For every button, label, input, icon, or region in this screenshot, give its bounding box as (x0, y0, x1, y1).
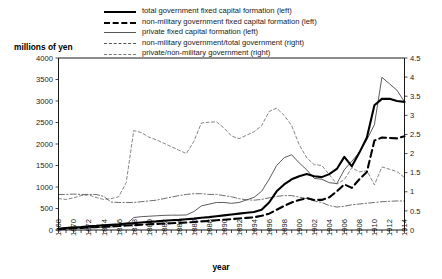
x-axis-tick-label: 1878 (130, 219, 139, 236)
y-axis-left-tick-label: 1000 (36, 183, 53, 192)
x-axis-tick-label: 1892 (235, 219, 244, 236)
y-axis-right-ticks: 00.511.522.533.544.5 (405, 54, 421, 235)
y-axis-left-tick-label: 3500 (36, 75, 53, 84)
x-axis-tick-label: 1884 (175, 219, 184, 236)
chart-svg: 05001000150020002500300035004000 00.511.… (0, 0, 442, 279)
y-axis-left-tick-label: 4000 (36, 54, 53, 63)
x-axis-tick-label: 1890 (220, 219, 229, 236)
y-axis-right-tick-label: 1 (410, 187, 414, 196)
x-axis-tick-label: 1902 (310, 219, 319, 236)
y-axis-right-tick-label: 0 (410, 226, 414, 235)
data-series-group (59, 77, 405, 229)
x-axis-tick-label: 1912 (385, 219, 394, 236)
y-axis-right-tick-label: 4.5 (410, 54, 421, 63)
x-axis-tick-label: 1898 (280, 219, 289, 236)
y-axis-left-tick-label: 500 (40, 204, 53, 213)
y-axis-right-tick-label: 1.5 (410, 168, 421, 177)
x-axis-tick-label: 1906 (340, 219, 349, 236)
chart-figure: total government fixed capital formation… (0, 0, 442, 279)
series-line (59, 77, 405, 229)
y-axis-left-tick-label: 2000 (36, 140, 53, 149)
y-axis-left-ticks: 05001000150020002500300035004000 (36, 54, 58, 235)
y-axis-left-tick-label: 3000 (36, 97, 53, 106)
x-axis-tick-label: 1876 (115, 219, 124, 236)
x-axis-tick-label: 1894 (250, 219, 259, 236)
series-line (59, 99, 405, 229)
y-axis-right-tick-label: 3 (410, 111, 414, 120)
x-axis-tick-label: 1900 (295, 219, 304, 236)
series-line (59, 108, 405, 199)
series-line (59, 194, 405, 207)
x-axis-tick-label: 1904 (325, 219, 334, 236)
plot-area: 05001000150020002500300035004000 00.511.… (0, 0, 442, 279)
y-axis-right-tick-label: 2 (410, 149, 414, 158)
y-axis-left-tick-label: 1500 (36, 161, 53, 170)
y-axis-right-tick-label: 2.5 (410, 130, 421, 139)
x-axis-tick-label: 1908 (355, 219, 364, 236)
axis-lines (59, 58, 405, 230)
y-axis-right-tick-label: 3.5 (410, 92, 421, 101)
y-axis-right-tick-label: 4 (410, 73, 414, 82)
y-axis-left-tick-label: 2500 (36, 118, 53, 127)
x-axis-tick-label: 1896 (265, 219, 274, 236)
y-axis-right-tick-label: 0.5 (410, 207, 421, 216)
y-axis-left-tick-label: 0 (49, 226, 53, 235)
x-axis-tick-label: 1910 (370, 219, 379, 236)
